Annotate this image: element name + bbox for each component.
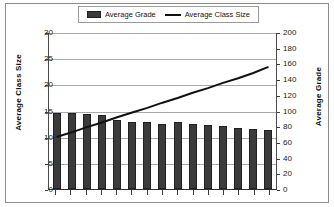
y-axis-left-tick-mark — [45, 33, 48, 34]
bar — [174, 122, 182, 189]
y-axis-left-tick-mark — [45, 85, 48, 86]
y-axis-right-title: Average Grade — [314, 49, 323, 145]
x-axis-tick-mark — [131, 190, 132, 195]
x-axis-tick-mark — [269, 190, 270, 195]
y-axis-right-tick-label: 200 — [283, 29, 307, 37]
bar — [219, 126, 227, 189]
bar — [143, 122, 151, 190]
y-axis-right-tick-mark — [277, 49, 280, 50]
bar — [53, 113, 61, 189]
x-axis-tick-mark — [238, 190, 239, 195]
bar — [83, 114, 91, 189]
y-axis-right-tick-mark — [277, 190, 280, 191]
chart-figure: Average Grade Average Class Size Average… — [0, 0, 334, 207]
bar — [249, 129, 257, 189]
y-axis-right-tick-label: 0 — [283, 186, 307, 194]
y-axis-right-tick-mark — [277, 96, 280, 97]
legend-label-average-grade: Average Grade — [105, 11, 156, 19]
y-axis-right-tick-mark — [277, 64, 280, 65]
x-axis-tick-mark — [162, 190, 163, 195]
y-axis-right-tick-mark — [277, 112, 280, 113]
y-axis-left-tick-mark — [45, 164, 48, 165]
bar — [113, 120, 121, 189]
y-axis-right-tick-label: 140 — [283, 76, 307, 84]
bar — [234, 128, 242, 189]
x-axis-tick-mark — [86, 190, 87, 195]
y-axis-left-tick-mark — [45, 138, 48, 139]
y-axis-right-tick-mark — [277, 80, 280, 81]
x-axis-tick-mark — [177, 190, 178, 195]
legend-item-average-class-size: Average Class Size — [165, 11, 250, 19]
y-axis-right-tick-label: 80 — [283, 123, 307, 131]
y-axis-right-tick-label: 100 — [283, 108, 307, 116]
x-axis-tick-mark — [193, 190, 194, 195]
plot-area — [48, 33, 277, 190]
bar-series-average-grade — [49, 33, 276, 189]
x-axis-tick-mark — [223, 190, 224, 195]
y-axis-right-tick-mark — [277, 33, 280, 34]
bar — [189, 124, 197, 189]
y-axis-right-tick-label: 40 — [283, 155, 307, 163]
y-axis-right-tick-label: 60 — [283, 139, 307, 147]
x-axis-ticks — [48, 190, 277, 196]
legend-label-average-class-size: Average Class Size — [185, 11, 250, 19]
x-axis-tick-mark — [208, 190, 209, 195]
y-axis-right-tick-mark — [277, 174, 280, 175]
x-axis-tick-mark — [55, 190, 56, 195]
y-axis-right-tick-label: 120 — [283, 92, 307, 100]
x-axis-tick-mark — [116, 190, 117, 195]
y-axis-right-tick-mark — [277, 127, 280, 128]
y-axis-left-tick-mark — [45, 112, 48, 113]
line-swatch-icon — [165, 14, 181, 16]
y-axis-right-tick-mark — [277, 143, 280, 144]
y-axis-right-tick-label: 160 — [283, 60, 307, 68]
x-axis-tick-mark — [147, 190, 148, 195]
y-axis-left-title: Average Class Size — [14, 45, 23, 141]
y-axis-right-tick-mark — [277, 159, 280, 160]
chart-legend: Average Grade Average Class Size — [78, 6, 259, 23]
bar — [68, 113, 76, 189]
x-axis-tick-mark — [70, 190, 71, 195]
bar — [204, 125, 212, 189]
bar — [158, 124, 166, 189]
bar — [264, 130, 272, 189]
y-axis-left-tick-mark — [45, 59, 48, 60]
x-axis-tick-mark — [101, 190, 102, 195]
y-axis-right-tick-label: 180 — [283, 45, 307, 53]
y-axis-right-tick-label: 20 — [283, 170, 307, 178]
bar — [128, 122, 136, 190]
bar-swatch-icon — [87, 11, 101, 18]
legend-item-average-grade: Average Grade — [87, 11, 156, 19]
bar — [98, 115, 106, 189]
x-axis-tick-mark — [254, 190, 255, 195]
